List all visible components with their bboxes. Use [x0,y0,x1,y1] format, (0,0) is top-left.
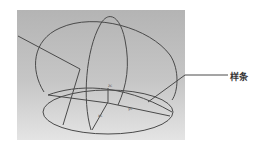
axis-label-y: yc [128,106,133,111]
inner-curve [48,88,172,112]
axis-label-x: xc [98,113,103,118]
spline-label: 样条 [230,70,248,83]
outer-arc-curve [36,22,177,100]
axis-label-z: zc [108,83,112,88]
spline-callout-line [148,75,228,102]
vertical-arc-curve [86,17,127,130]
axis-y [48,95,108,103]
left-leader-line [18,36,80,125]
axis-y2 [108,103,170,116]
